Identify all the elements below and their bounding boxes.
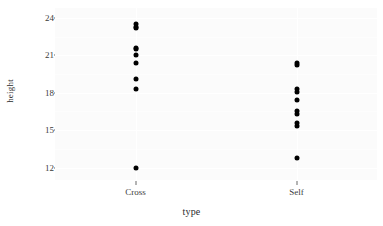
gridline-major	[55, 55, 377, 56]
gridline-major	[55, 130, 377, 131]
x-axis-tick-label: Cross	[125, 187, 146, 197]
y-axis-title-label: height	[5, 79, 15, 103]
data-point	[294, 111, 299, 116]
gridline-major	[55, 18, 377, 19]
data-point	[294, 124, 299, 129]
chart-figure: height 1215182124 type CrossSelf	[0, 0, 383, 226]
y-axis: 1215182124	[18, 0, 54, 182]
data-point	[294, 89, 299, 94]
data-point	[133, 53, 138, 58]
data-point	[133, 25, 138, 30]
data-point	[133, 87, 138, 92]
gridline-major	[55, 93, 377, 94]
data-point	[133, 60, 138, 65]
x-axis-tick-mark	[296, 181, 297, 185]
y-axis-tick-label: 18	[45, 88, 54, 98]
y-axis-tick-label: 12	[45, 163, 54, 173]
gridline-major	[55, 168, 377, 169]
data-point	[294, 155, 299, 160]
y-axis-tick-label: 21	[45, 50, 54, 60]
y-axis-tick-label: 24	[45, 13, 54, 23]
gridline-minor	[55, 111, 377, 112]
x-axis-title: type	[0, 206, 383, 217]
gridline-minor	[55, 37, 377, 38]
x-axis-title-label: type	[182, 206, 200, 217]
x-axis-tick-label: Self	[289, 187, 304, 197]
data-point	[133, 47, 138, 52]
x-axis-tick-mark	[135, 181, 136, 185]
data-point	[294, 98, 299, 103]
data-point	[294, 63, 299, 68]
data-point	[133, 165, 138, 170]
y-axis-tick-label: 15	[45, 125, 54, 135]
gridline-vertical	[136, 8, 137, 180]
gridline-minor	[55, 74, 377, 75]
gridline-minor	[55, 149, 377, 150]
y-axis-title: height	[2, 0, 18, 182]
data-point	[133, 77, 138, 82]
plot-panel	[55, 8, 377, 180]
